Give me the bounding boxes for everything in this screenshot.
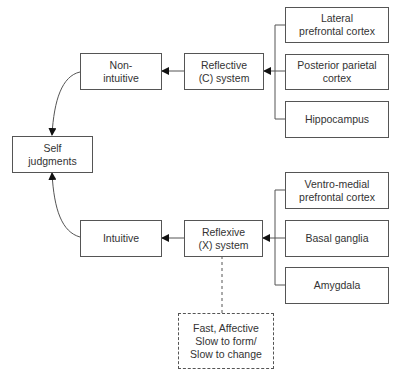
node-label: Amygdala xyxy=(314,279,361,292)
node-amygdala: Amygdala xyxy=(285,267,389,304)
node-non-intuitive: Non- intuitive xyxy=(80,53,162,90)
node-posterior-parietal-cortex: Posterior parietal cortex xyxy=(285,54,389,90)
node-label: Posterior parietal cortex xyxy=(297,59,376,85)
node-label: Ventro-medial prefrontal cortex xyxy=(299,178,375,204)
node-reflexive-system: Reflexive (X) system xyxy=(184,220,263,257)
node-label: Hippocampus xyxy=(305,113,369,126)
node-label: Reflexive (X) system xyxy=(198,226,248,252)
node-hippocampus: Hippocampus xyxy=(285,101,389,138)
node-label: Basal ganglia xyxy=(305,232,368,245)
reflexive-bracket xyxy=(263,190,285,285)
node-label: Lateral prefrontal cortex xyxy=(299,12,375,38)
node-label: Reflective (C) system xyxy=(199,59,250,85)
node-ventro-medial-prefrontal-cortex: Ventro-medial prefrontal cortex xyxy=(285,172,389,209)
arrow-nonintuitive-to-self xyxy=(52,72,80,135)
node-basal-ganglia: Basal ganglia xyxy=(285,220,389,257)
node-label: Intuitive xyxy=(103,232,139,245)
reflective-bracket xyxy=(264,25,285,119)
arrow-intuitive-to-self xyxy=(52,173,80,237)
node-lateral-prefrontal-cortex: Lateral prefrontal cortex xyxy=(285,7,389,43)
note-x-system-properties: Fast, Affective Slow to form/ Slow to ch… xyxy=(178,313,274,369)
node-label: Self judgments xyxy=(28,142,76,168)
note-label: Fast, Affective Slow to form/ Slow to ch… xyxy=(190,322,262,361)
node-self-judgments: Self judgments xyxy=(12,136,93,173)
node-reflective-system: Reflective (C) system xyxy=(184,53,264,90)
node-label: Non- intuitive xyxy=(103,59,139,85)
node-intuitive: Intuitive xyxy=(80,220,162,257)
